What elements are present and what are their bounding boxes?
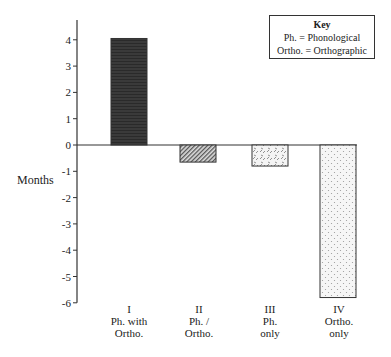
y-tick-label: -1 bbox=[62, 165, 71, 177]
y-tick-label: 4 bbox=[66, 34, 72, 46]
y-tick-label: 1 bbox=[66, 113, 72, 125]
y-tick-label: -2 bbox=[62, 192, 71, 204]
x-category-label: Ortho. bbox=[115, 327, 144, 339]
x-category-label: Ph. with bbox=[111, 315, 148, 327]
y-axis-label: Months bbox=[17, 173, 54, 188]
y-tick-label: 2 bbox=[66, 86, 72, 98]
x-category-label: Ortho. bbox=[325, 315, 354, 327]
x-category-label: Ph. bbox=[263, 315, 278, 327]
y-tick-label: -4 bbox=[62, 244, 72, 256]
x-category-label: IV bbox=[333, 303, 345, 315]
legend-key: Key Ph. = Phonological Ortho. = Orthogra… bbox=[269, 15, 375, 59]
x-category-label: III bbox=[265, 303, 276, 315]
bar bbox=[111, 38, 147, 145]
legend-title: Key bbox=[270, 18, 374, 31]
y-tick-label: -5 bbox=[62, 271, 72, 283]
y-tick-label: -6 bbox=[62, 297, 72, 309]
axes: 43210-1-2-3-4-5-6 bbox=[62, 20, 357, 309]
legend-entry: Ortho. = Orthographic bbox=[270, 44, 374, 57]
legend-entry: Ph. = Phonological bbox=[270, 31, 374, 44]
y-tick-label: -3 bbox=[62, 218, 72, 230]
y-tick-label: 0 bbox=[66, 139, 72, 151]
x-category-label: only bbox=[329, 327, 349, 339]
bars bbox=[111, 38, 356, 297]
x-category-label: II bbox=[195, 303, 203, 315]
x-category-label: only bbox=[260, 327, 280, 339]
x-category-label: Ph. / bbox=[189, 315, 210, 327]
bar bbox=[320, 145, 356, 298]
y-tick-label: 3 bbox=[66, 60, 72, 72]
category-labels: IPh. withOrtho.IIPh. /Ortho.IIIPh.onlyIV… bbox=[111, 303, 354, 339]
bar bbox=[252, 145, 288, 166]
x-category-label: I bbox=[127, 303, 131, 315]
x-category-label: Ortho. bbox=[185, 327, 214, 339]
bar bbox=[180, 145, 216, 162]
